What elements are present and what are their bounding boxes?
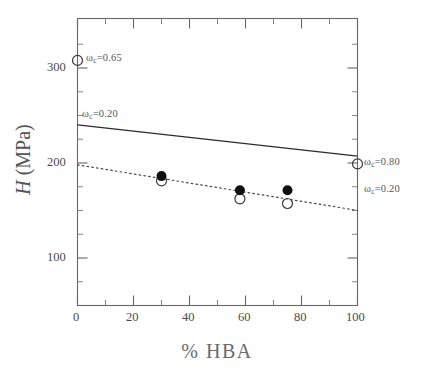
annotation-omega-080-right: ωc=0.80 xyxy=(364,156,400,169)
x-tick-label-80: 80 xyxy=(294,310,307,325)
y-axis-label: H (MPa) xyxy=(12,105,35,215)
omega-value: =0.80 xyxy=(375,156,400,167)
x-tick-label-0: 0 xyxy=(73,310,79,325)
omega-value: =0.20 xyxy=(375,183,400,194)
x-tick-label-40: 40 xyxy=(182,310,195,325)
chart-figure: 300 200 100 0 20 40 60 80 100 ωc=0.65 ωc… xyxy=(0,0,421,374)
annotation-omega-065: ωc=0.65 xyxy=(86,52,122,65)
open-circle-markers xyxy=(73,55,363,208)
y-tick-label-100: 100 xyxy=(47,250,66,265)
omega-value: =0.20 xyxy=(93,108,118,119)
y-tick-label-200: 200 xyxy=(47,155,66,170)
y-tick-label-300: 300 xyxy=(47,60,66,75)
y-axis-label-units: (MPa) xyxy=(12,124,34,180)
omega-value: =0.65 xyxy=(97,52,122,63)
annotation-omega-020-left: ωc=0.20 xyxy=(82,108,118,121)
x-tick-label-60: 60 xyxy=(238,310,251,325)
solid-fit-line xyxy=(78,125,358,156)
y-axis-minor-ticks xyxy=(78,44,358,282)
x-axis-label: % HBA xyxy=(77,340,357,363)
y-axis-major-ticks xyxy=(78,68,358,258)
filled-circle-markers xyxy=(157,171,293,195)
x-axis-minor-ticks xyxy=(106,19,330,306)
x-tick-label-20: 20 xyxy=(126,310,139,325)
dotted-fit-line xyxy=(78,165,358,211)
annotation-omega-020-right: ωc=0.20 xyxy=(364,183,400,196)
x-tick-label-100: 100 xyxy=(346,310,365,325)
y-axis-label-symbol: H xyxy=(12,180,34,194)
